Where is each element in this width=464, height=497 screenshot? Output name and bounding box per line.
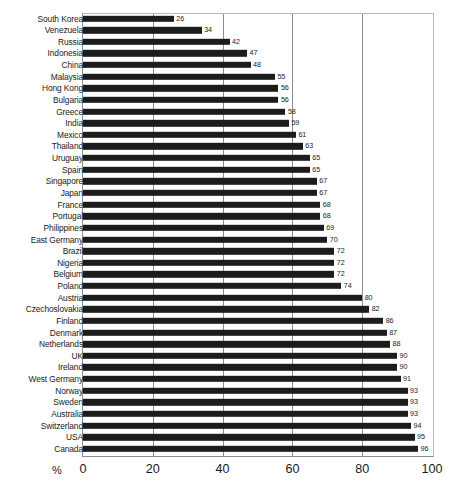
bar	[83, 62, 251, 68]
bar	[83, 364, 397, 370]
bar	[83, 213, 320, 219]
bar-row: Russia42	[0, 36, 464, 47]
bar-row: Czechoslovakia82	[0, 304, 464, 315]
bar-row: Venezuela34	[0, 25, 464, 36]
bar-row: Belgium72	[0, 269, 464, 280]
category-label: Norway	[55, 386, 83, 395]
bar	[83, 50, 247, 56]
bar-row: Poland74	[0, 281, 464, 292]
bar-value-label: 91	[403, 375, 411, 383]
bar-value-label: 72	[337, 247, 345, 255]
bar	[83, 155, 310, 161]
x-tick-label: 60	[285, 462, 299, 476]
category-label: Indonesia	[48, 49, 83, 58]
bar-row: Philippines69	[0, 222, 464, 233]
bar-value-label: 93	[410, 398, 418, 406]
category-label: Canada	[54, 444, 83, 453]
bar	[83, 132, 296, 138]
category-label: Spain	[62, 165, 83, 174]
bar	[83, 318, 383, 324]
bar-row: Nigeria72	[0, 257, 464, 268]
bar-value-label: 34	[204, 26, 212, 34]
bar	[83, 85, 278, 91]
bar-row: Ireland90	[0, 362, 464, 373]
bar-value-label: 65	[312, 154, 320, 162]
category-label: USA	[66, 433, 83, 442]
bar	[83, 73, 275, 79]
category-label: China	[62, 61, 83, 70]
bar-row: Finland86	[0, 315, 464, 326]
bar-value-label: 87	[389, 329, 397, 337]
bar-value-label: 88	[393, 340, 401, 348]
bar	[83, 353, 397, 359]
bar-row: Canada96	[0, 443, 464, 454]
bar-value-label: 69	[326, 224, 334, 232]
bar	[83, 143, 303, 149]
bar	[83, 97, 278, 103]
category-label: Japan	[61, 188, 83, 197]
bar-value-label: 48	[253, 61, 261, 69]
bar-value-label: 72	[337, 270, 345, 278]
bar	[83, 236, 327, 242]
bar-row: USA95	[0, 432, 464, 443]
bar-row: Denmark87	[0, 327, 464, 338]
x-axis-unit-label: %	[52, 464, 62, 476]
bar-row: South Korea26	[0, 13, 464, 24]
bar	[83, 294, 362, 300]
bar-value-label: 68	[323, 201, 331, 209]
bar	[83, 27, 202, 33]
bar-row: Singapore67	[0, 176, 464, 187]
category-label: Nigeria	[57, 258, 83, 267]
bar	[83, 399, 408, 405]
horizontal-bar-chart: South Korea26Venezuela34Russia42Indonesi…	[0, 0, 464, 497]
bar-row: Brazil72	[0, 246, 464, 257]
bar-value-label: 95	[417, 433, 425, 441]
bar	[83, 411, 408, 417]
bar	[83, 225, 324, 231]
bar-row: Japan67	[0, 187, 464, 198]
category-label: Philippines	[44, 223, 83, 232]
bar	[83, 306, 369, 312]
category-label: Hong Kong	[42, 84, 83, 93]
category-label: Sweden	[53, 398, 83, 407]
bar	[83, 341, 390, 347]
category-label: East Germany	[31, 235, 83, 244]
category-label: France	[58, 200, 83, 209]
bar-value-label: 47	[250, 49, 258, 57]
bar	[83, 248, 334, 254]
bar-value-label: 65	[312, 166, 320, 174]
category-label: Malaysia	[51, 72, 83, 81]
category-label: India	[65, 119, 83, 128]
bar-value-label: 42	[232, 38, 240, 46]
bar-value-label: 67	[319, 189, 327, 197]
category-label: South Korea	[38, 14, 83, 23]
x-tick-label: 80	[355, 462, 369, 476]
category-label: Austria	[58, 293, 83, 302]
bar-value-label: 90	[400, 363, 408, 371]
bar-value-label: 82	[372, 305, 380, 313]
bar	[83, 120, 289, 126]
bar-row: Uruguay65	[0, 153, 464, 164]
bar-rows: South Korea26Venezuela34Russia42Indonesi…	[0, 13, 464, 455]
bar-row: Norway93	[0, 385, 464, 396]
bar-value-label: 70	[330, 236, 338, 244]
bar	[83, 376, 401, 382]
bar	[83, 434, 415, 440]
category-label: Finland	[56, 316, 83, 325]
bar-row: Australia93	[0, 408, 464, 419]
category-label: West Germany	[29, 375, 84, 384]
category-label: Netherlands	[39, 340, 83, 349]
bar	[83, 260, 334, 266]
bar-value-label: 96	[421, 445, 429, 453]
x-tick-label: 0	[79, 462, 86, 476]
category-label: Switzerland	[41, 421, 83, 430]
bar-row: UK90	[0, 350, 464, 361]
category-label: Poland	[58, 282, 83, 291]
category-label: Mexico	[57, 130, 83, 139]
bar-row: Netherlands88	[0, 339, 464, 350]
bar-row: Thailand63	[0, 141, 464, 152]
bar-value-label: 56	[281, 84, 289, 92]
bar-value-label: 55	[277, 73, 285, 81]
bar	[83, 283, 341, 289]
bar-row: East Germany70	[0, 234, 464, 245]
